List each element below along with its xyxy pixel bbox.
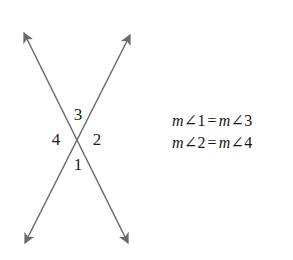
- measure-symbol-left-2: m: [172, 134, 184, 151]
- equation-line-2: m∠2=m∠4: [172, 132, 284, 154]
- angle-label-3: 3: [70, 106, 86, 123]
- vertical-angles-figure: 3 4 2 1 m∠1=m∠3 m∠2=m∠4: [0, 0, 293, 260]
- angle-label-2: 2: [89, 131, 105, 148]
- angle-number-right-2: 4: [244, 134, 252, 151]
- measure-symbol-left-1: m: [172, 112, 184, 129]
- vertical-angle-equations: m∠1=m∠3 m∠2=m∠4: [172, 110, 284, 154]
- angle-number-left-2: 2: [197, 134, 205, 151]
- angle-icon-right-2: ∠: [231, 134, 245, 151]
- angle-label-4: 4: [48, 131, 64, 148]
- angle-number-left-1: 1: [197, 112, 205, 129]
- equation-line-1: m∠1=m∠3: [172, 110, 284, 132]
- intersecting-lines-diagram: 3 4 2 1: [0, 0, 160, 260]
- measure-symbol-right-1: m: [219, 112, 231, 129]
- equals-sign-2: =: [208, 134, 217, 151]
- angle-label-1: 1: [70, 156, 86, 173]
- measure-symbol-right-2: m: [219, 134, 231, 151]
- line-upper-left-to-lower-right: [24, 33, 128, 243]
- angle-icon-left-1: ∠: [184, 112, 198, 129]
- angle-icon-right-1: ∠: [231, 112, 245, 129]
- angle-icon-left-2: ∠: [184, 134, 198, 151]
- angle-number-right-1: 3: [244, 112, 252, 129]
- equals-sign-1: =: [208, 112, 217, 129]
- diagram-canvas: [0, 0, 160, 260]
